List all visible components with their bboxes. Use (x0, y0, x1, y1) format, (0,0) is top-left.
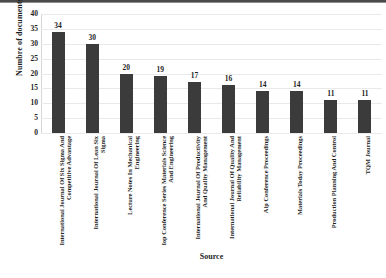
y-tick-label: 30 (22, 40, 38, 48)
x-axis-label: Lecture Notes In Mechanical Engineering (126, 136, 141, 248)
x-label-slot: International Journal Of Productivity An… (188, 136, 201, 248)
bar-value-label: 20 (123, 64, 131, 72)
gridline (41, 133, 382, 134)
x-axis-label: International Journal Of Productivity An… (194, 136, 209, 248)
x-label-slot: International Journal Of Lean Six Sigma (86, 136, 99, 248)
plot-area: 34302019171614141111 (41, 14, 382, 133)
y-tick-label: 15 (22, 84, 38, 92)
bar-chart-figure: Numbre of documents 0510152025303540 343… (0, 0, 386, 278)
x-label-slot: International Journal Of Six Sigma And C… (52, 136, 65, 248)
bar-value-label: 17 (191, 72, 199, 80)
bar (86, 44, 99, 133)
y-axis-tick-labels: 0510152025303540 (22, 10, 38, 138)
bar-slot: 11 (324, 14, 337, 133)
x-label-slot: Materials Today Proceedings (290, 136, 303, 248)
bar (324, 100, 337, 133)
x-label-slot: Aip Conference Proceedings (256, 136, 269, 248)
bar-slot: 11 (358, 14, 371, 133)
y-tick-label: 10 (22, 99, 38, 107)
x-label-slot: Production Planning And Control (324, 136, 337, 248)
bar-slot: 30 (86, 14, 99, 133)
y-tick-label: 35 (22, 25, 38, 33)
bar-slot: 14 (290, 14, 303, 133)
bar (52, 32, 65, 133)
bar-slot: 20 (120, 14, 133, 133)
y-tick-label: 25 (22, 55, 38, 63)
bar-value-label: 16 (225, 75, 233, 83)
bar-value-label: 14 (293, 81, 301, 89)
x-label-slot: International Journal Of Quality And Rel… (222, 136, 235, 248)
x-axis-category-labels: International Journal Of Six Sigma And C… (41, 136, 382, 248)
x-label-slot: TQM Journal (358, 136, 371, 248)
y-tick-label: 5 (22, 114, 38, 122)
x-axis-label: International Journal Of Quality And Rel… (228, 136, 243, 248)
x-axis-label: Aip Conference Proceedings (262, 136, 269, 248)
bar-slot: 14 (256, 14, 269, 133)
bar (120, 74, 133, 134)
x-label-slot: Iop Conference Series Materials Science … (154, 136, 167, 248)
bar (290, 91, 303, 133)
x-axis-label: TQM Journal (364, 136, 371, 248)
x-axis-title: Source (41, 252, 382, 261)
bar-value-label: 11 (327, 90, 334, 98)
bar-value-label: 11 (361, 90, 368, 98)
bar-slot: 16 (222, 14, 235, 133)
bar (188, 82, 201, 133)
y-tick-label: 0 (22, 129, 38, 137)
y-tick-label: 40 (22, 10, 38, 18)
x-axis-label: International Journal Of Lean Six Sigma (92, 136, 107, 248)
bar (256, 91, 269, 133)
x-axis-label: Production Planning And Control (330, 136, 337, 248)
bar-slot: 17 (188, 14, 201, 133)
x-axis-label: International Journal Of Six Sigma And C… (58, 136, 73, 248)
bar-slot: 19 (154, 14, 167, 133)
bar-value-label: 14 (259, 81, 267, 89)
y-tick-label: 20 (22, 70, 38, 78)
bar-slot: 34 (52, 14, 65, 133)
bar (222, 85, 235, 133)
bar-value-label: 30 (88, 34, 96, 42)
x-label-slot: Lecture Notes In Mechanical Engineering (120, 136, 133, 248)
bar (358, 100, 371, 133)
x-axis-label: Iop Conference Series Materials Science … (160, 136, 175, 248)
x-axis-label: Materials Today Proceedings (296, 136, 303, 248)
bar-value-label: 19 (157, 66, 165, 74)
bar (154, 76, 167, 133)
scan-border-top-secondary (0, 2, 386, 3)
bar-value-label: 34 (54, 22, 62, 30)
